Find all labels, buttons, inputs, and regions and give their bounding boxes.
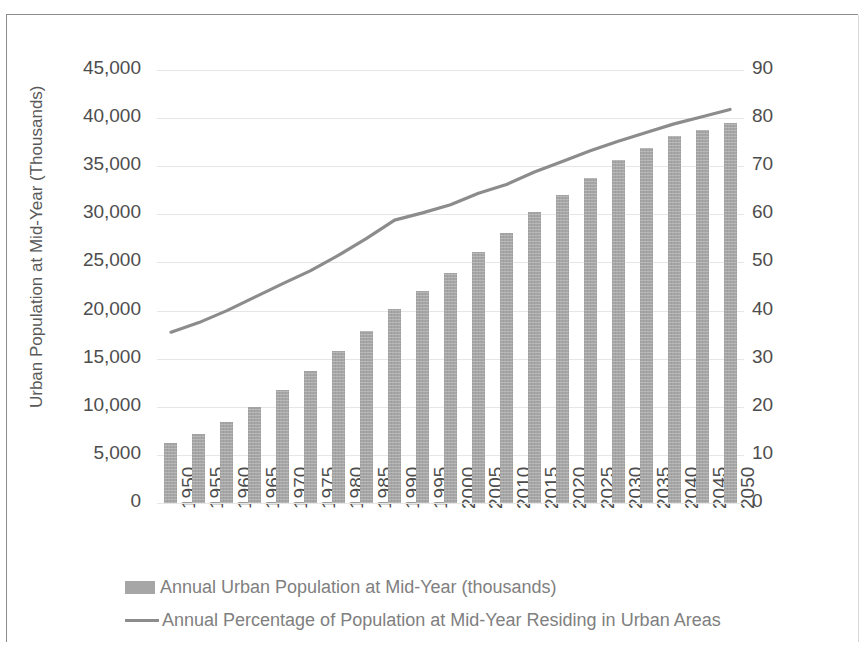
y-tick-right: 90 (752, 57, 812, 79)
y-tick-right: 60 (752, 201, 812, 223)
y-tick-left: 40,000 (45, 105, 141, 127)
y-tick-left: 30,000 (45, 201, 141, 223)
line-swatch-icon (125, 619, 159, 622)
legend-item-bar: Annual Urban Population at Mid-Year (tho… (125, 577, 765, 598)
y-tick-right: 50 (752, 249, 812, 271)
y-tick-left: 0 (45, 490, 141, 512)
gridline (157, 503, 744, 504)
y-tick-left: 20,000 (45, 298, 141, 320)
chart-frame: Urban Population at Mid-Year (Thousands)… (6, 14, 858, 642)
legend-label-line: Annual Percentage of Population at Mid-Y… (162, 610, 721, 631)
legend-item-line: Annual Percentage of Population at Mid-Y… (125, 610, 765, 631)
y-tick-left: 15,000 (45, 346, 141, 368)
y-tick-right: 70 (752, 153, 812, 175)
chart-legend: Annual Urban Population at Mid-Year (tho… (125, 577, 765, 643)
line-series (157, 70, 744, 503)
y-tick-right: 30 (752, 346, 812, 368)
bar-swatch-icon (125, 581, 155, 594)
plot-area (157, 70, 744, 503)
y-axis-left-title: Urban Population at Mid-Year (Thousands) (27, 51, 47, 443)
legend-label-bar: Annual Urban Population at Mid-Year (tho… (160, 577, 557, 598)
y-tick-left: 45,000 (45, 57, 141, 79)
y-tick-right: 0 (752, 490, 812, 512)
y-tick-right: 80 (752, 105, 812, 127)
y-tick-right: 10 (752, 442, 812, 464)
y-tick-right: 20 (752, 394, 812, 416)
y-tick-left: 5,000 (45, 442, 141, 464)
y-tick-left: 10,000 (45, 394, 141, 416)
y-tick-right: 40 (752, 298, 812, 320)
y-tick-left: 25,000 (45, 249, 141, 271)
y-tick-left: 35,000 (45, 153, 141, 175)
